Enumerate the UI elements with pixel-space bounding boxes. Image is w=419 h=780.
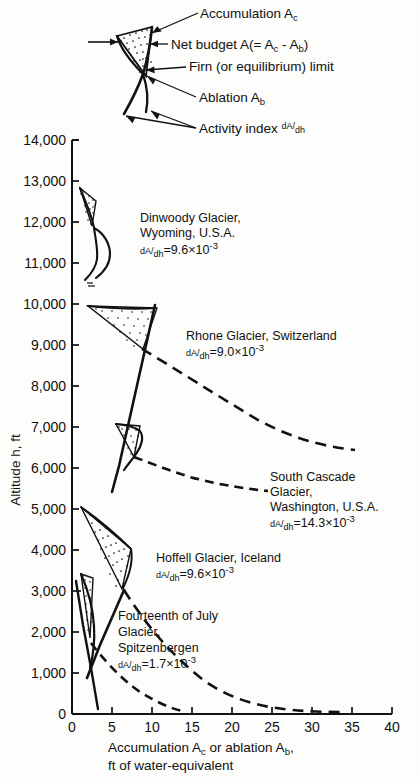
rhone-net-budget-line (112, 305, 155, 492)
fourteenth-label-line3: Spitzenbergen (118, 641, 199, 655)
x-tick-label: 15 (184, 719, 200, 735)
y-tick-label: 7,000 (31, 419, 66, 435)
y-tick-label: 8,000 (31, 378, 66, 394)
y-tick-label: 12,000 (23, 214, 66, 230)
x-tick-label: 0 (68, 719, 76, 735)
y-tick-label: 0 (58, 706, 66, 722)
south-cascade-label-line3: Washington, U.S.A. (270, 500, 379, 514)
dinwoody-label-line2: Wyoming, U.S.A. (140, 226, 235, 240)
south-cascade-label-line2: Glacier, (270, 485, 312, 499)
inset-left-arrow (88, 39, 118, 46)
x-tick-label: 35 (344, 719, 360, 735)
annotation-activity-index: Activity index dA/dh (199, 121, 305, 136)
y-tick-label: 6,000 (31, 460, 66, 476)
annotation-accumulation: Accumulation Ac (200, 6, 298, 23)
x-tick-labels: 0 5 10 15 20 25 30 35 40 (68, 719, 400, 735)
hoffell-activity-index: dA/dh=9.6×10-3 (156, 564, 234, 583)
rhone-stipple (95, 308, 152, 347)
annotation-net-budget: Net budget A(= Ac - Ab) (171, 37, 308, 54)
rhone-ablation-curve (142, 349, 355, 450)
inset-ablation-branch (143, 74, 147, 112)
south-cascade-ablation-curve (134, 457, 268, 491)
south-cascade-label-line1: South Cascade (270, 470, 356, 484)
y-tick-label: 9,000 (31, 337, 66, 353)
y-tick-label: 3,000 (31, 583, 66, 599)
y-tick-label: 4,000 (31, 542, 66, 558)
series-south-cascade: South Cascade Glacier, Washington, U.S.A… (116, 424, 379, 532)
x-axis-title-line1: Accumulation Ac or ablation Ab, (108, 740, 294, 757)
hoffell-label-line1: Hoffell Glacier, Iceland (156, 551, 281, 565)
y-tick-label: 10,000 (23, 296, 66, 312)
leader-accumulation (152, 13, 198, 33)
x-tick-label: 10 (144, 719, 160, 735)
y-tick-label: 1,000 (31, 665, 66, 681)
dinwoody-activity-index: dA/dh=9.6×10-3 (140, 240, 218, 259)
dinwoody-accumulation-curve (80, 188, 97, 280)
leader-firn-limit (146, 66, 186, 73)
x-tick-label: 40 (384, 719, 400, 735)
series-fourteenth-of-july: Fourteenth of July Glacier, Spitzenberge… (76, 574, 219, 712)
y-tick-label: 5,000 (31, 501, 66, 517)
y-tick-label: 13,000 (23, 173, 66, 189)
dinwoody-label-line1: Dinwoody Glacier, (140, 211, 241, 225)
inset-schematic: Accumulation Ac Net budget A(= Ac - Ab) … (88, 6, 334, 136)
y-tick-labels: 0 1,000 2,000 3,000 4,000 5,000 6,000 7,… (23, 132, 66, 722)
x-axis-title-line2: ft of water-equivalent (108, 758, 234, 773)
figure-container: Accumulation Ac Net budget A(= Ac - Ab) … (0, 0, 419, 780)
y-axis-title: Altitude h, ft (8, 434, 23, 506)
annotation-ablation: Ablation Ab (199, 90, 265, 107)
x-tick-label: 30 (304, 719, 320, 735)
x-tick-label: 25 (264, 719, 280, 735)
x-tick-label: 5 (108, 719, 116, 735)
fourteenth-label-line2: Glacier, (118, 625, 160, 639)
fourteenth-activity-index: dA/dh=1.7×10-3 (118, 654, 196, 673)
hoffell-stipple (85, 510, 129, 587)
south-cascade-activity-index: dA/dh=14.3×10-3 (270, 513, 355, 532)
y-tick-label: 14,000 (23, 132, 66, 148)
x-tick-label: 20 (224, 719, 240, 735)
rhone-activity-index: dA/dh=9.0×10-3 (186, 342, 264, 361)
y-tick-label: 2,000 (31, 624, 66, 640)
leader-activity-index (126, 111, 196, 128)
fourteenth-label-line1: Fourteenth of July (118, 609, 219, 623)
leader-net-budget (150, 41, 168, 47)
inset-accumulation-wedge (117, 27, 152, 76)
dinwoody-terminus-hatch (87, 283, 95, 286)
annotation-firn-limit: Firn (or equilibrium) limit (189, 59, 334, 74)
chart-svg: Accumulation Ac Net budget A(= Ac - Ab) … (0, 0, 419, 780)
leader-ablation (147, 76, 196, 97)
x-ticks (72, 707, 392, 714)
rhone-label-line1: Rhone Glacier, Switzerland (186, 329, 337, 343)
series-dinwoody: Dinwoody Glacier, Wyoming, U.S.A. dA/dh=… (80, 188, 241, 286)
y-tick-label: 11,000 (24, 255, 66, 271)
y-ticks (72, 140, 81, 714)
